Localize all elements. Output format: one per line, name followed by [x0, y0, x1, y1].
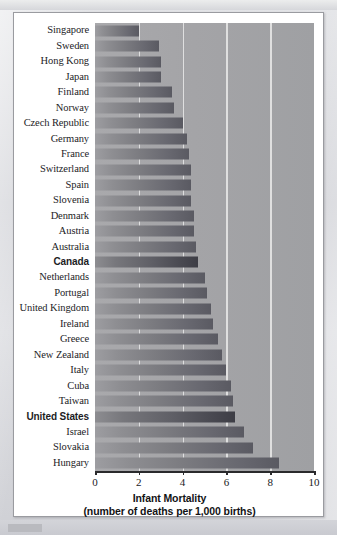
- category-label-united-kingdom: United Kingdom: [14, 301, 92, 316]
- category-label-text: Taiwan: [59, 396, 89, 407]
- x-tick-label-2: 2: [136, 476, 142, 488]
- category-label-text: Austria: [59, 226, 89, 237]
- category-label-text: Norway: [56, 103, 89, 114]
- category-label-text: Australia: [51, 242, 89, 253]
- bar-slovakia: [95, 442, 253, 453]
- bar-row: [95, 409, 314, 424]
- x-tick-0: [95, 471, 97, 475]
- x-tick-2: [139, 471, 141, 475]
- bar-portugal: [95, 288, 207, 299]
- category-label-text: Denmark: [51, 211, 89, 222]
- category-label-new-zealand: New Zealand: [14, 347, 92, 362]
- category-label-text: Finland: [58, 87, 89, 98]
- bar-italy: [95, 365, 226, 376]
- plot-area: [95, 23, 314, 471]
- bar-row: [95, 332, 314, 347]
- bar-taiwan: [95, 396, 233, 407]
- bar-row: [95, 193, 314, 208]
- bar-row: [95, 455, 314, 470]
- x-tick-8: [270, 471, 272, 475]
- bar-hong-kong: [95, 56, 161, 67]
- category-label-text: United Kingdom: [20, 303, 89, 314]
- bar-united-kingdom: [95, 303, 211, 314]
- category-label-australia: Australia: [14, 239, 92, 254]
- bar-row: [95, 255, 314, 270]
- bar-row: [95, 162, 314, 177]
- bar-spain: [95, 180, 191, 191]
- category-label-text: France: [61, 149, 89, 160]
- bar-row: [95, 54, 314, 69]
- bar-row: [95, 270, 314, 285]
- x-tick-6: [226, 471, 228, 475]
- bar-row: [95, 347, 314, 362]
- category-label-greece: Greece: [14, 332, 92, 347]
- bar-row: [95, 301, 314, 316]
- category-label-spain: Spain: [14, 177, 92, 192]
- category-label-united-states: United States: [14, 409, 92, 424]
- category-label-text: Sweden: [56, 41, 89, 52]
- category-label-text: Spain: [66, 180, 89, 191]
- category-label-text: Slovenia: [53, 195, 89, 206]
- category-label-japan: Japan: [14, 69, 92, 84]
- bar-row: [95, 378, 314, 393]
- category-label-text: Hong Kong: [41, 56, 89, 67]
- category-label-italy: Italy: [14, 363, 92, 378]
- bar-cuba: [95, 380, 231, 391]
- bar-row: [95, 363, 314, 378]
- bar-austria: [95, 226, 194, 237]
- category-label-text: Israel: [66, 427, 89, 438]
- bar-row: [95, 224, 314, 239]
- bar-germany: [95, 133, 187, 144]
- bar-hungary: [95, 457, 279, 468]
- bar-series: [95, 23, 314, 471]
- chart-figure: SingaporeSwedenHong KongJapanFinlandNorw…: [13, 12, 324, 517]
- category-label-singapore: Singapore: [14, 23, 92, 38]
- category-label-text: Singapore: [47, 25, 89, 36]
- bar-israel: [95, 427, 244, 438]
- category-label-text: Portugal: [54, 288, 89, 299]
- category-label-text: Cuba: [67, 381, 89, 392]
- x-axis-title: Infant Mortality (number of deaths per 1…: [14, 492, 325, 517]
- bar-united-states: [95, 411, 235, 422]
- category-label-text: Czech Republic: [24, 118, 89, 129]
- category-label-portugal: Portugal: [14, 285, 92, 300]
- bar-row: [95, 239, 314, 254]
- category-label-text: Netherlands: [39, 272, 89, 283]
- category-label-text: Slovakia: [53, 442, 89, 453]
- bar-japan: [95, 72, 161, 83]
- x-tick-label-6: 6: [224, 476, 230, 488]
- x-axis-title-main: Infant Mortality: [14, 492, 325, 505]
- category-label-sweden: Sweden: [14, 38, 92, 53]
- x-axis-line: [95, 471, 314, 473]
- category-label-cuba: Cuba: [14, 378, 92, 393]
- category-axis-labels: SingaporeSwedenHong KongJapanFinlandNorw…: [14, 23, 92, 471]
- bar-row: [95, 440, 314, 455]
- bar-norway: [95, 102, 174, 113]
- category-label-text: Hungary: [53, 458, 89, 469]
- x-tick-label-10: 10: [309, 476, 320, 488]
- bar-row: [95, 147, 314, 162]
- category-label-netherlands: Netherlands: [14, 270, 92, 285]
- bar-row: [95, 116, 314, 131]
- bar-canada: [95, 257, 198, 268]
- category-label-hungary: Hungary: [14, 455, 92, 470]
- x-tick-label-4: 4: [180, 476, 186, 488]
- bar-row: [95, 208, 314, 223]
- x-tick-label-0: 0: [92, 476, 98, 488]
- x-axis-title-sub: (number of deaths per 1,000 births): [14, 505, 325, 518]
- scan-edge-marker: [8, 524, 42, 532]
- category-label-slovakia: Slovakia: [14, 440, 92, 455]
- category-label-text: Switzerland: [40, 164, 89, 175]
- bar-row: [95, 285, 314, 300]
- bar-row: [95, 316, 314, 331]
- bar-singapore: [95, 25, 139, 36]
- category-label-norway: Norway: [14, 100, 92, 115]
- category-label-slovenia: Slovenia: [14, 193, 92, 208]
- category-label-germany: Germany: [14, 131, 92, 146]
- bar-ireland: [95, 319, 213, 330]
- category-label-finland: Finland: [14, 85, 92, 100]
- bar-row: [95, 85, 314, 100]
- bar-row: [95, 177, 314, 192]
- bar-row: [95, 23, 314, 38]
- bar-greece: [95, 334, 218, 345]
